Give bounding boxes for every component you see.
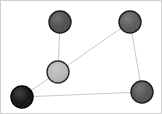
graph-canvas bbox=[0, 0, 162, 114]
nodes-layer bbox=[11, 11, 153, 108]
edges-layer bbox=[22, 22, 142, 97]
graph-node-top-right-node[interactable] bbox=[119, 11, 141, 33]
graph-node-shading-n1 bbox=[50, 12, 71, 33]
graph-node-bottom-right-node[interactable] bbox=[131, 81, 153, 103]
graph-node-center-node[interactable] bbox=[47, 61, 69, 83]
graph-node-top-left-node[interactable] bbox=[49, 11, 71, 33]
graph-node-shading-n5 bbox=[132, 82, 153, 103]
graph-svg bbox=[1, 1, 162, 114]
graph-node-shading-n4 bbox=[12, 87, 33, 108]
graph-node-bottom-left-node[interactable] bbox=[11, 86, 33, 108]
graph-edge-n5-n4 bbox=[22, 92, 142, 97]
graph-node-shading-n3 bbox=[48, 62, 69, 83]
graph-node-shading-n2 bbox=[120, 12, 141, 33]
